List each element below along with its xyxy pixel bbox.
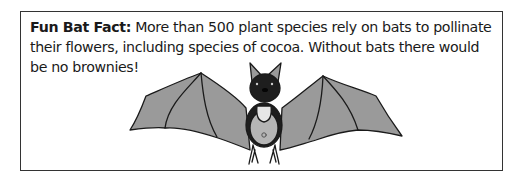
right-eye bbox=[271, 83, 273, 85]
bat-nose bbox=[262, 88, 268, 92]
left-eye bbox=[256, 83, 258, 85]
bat-icon bbox=[0, 0, 527, 180]
right-foot bbox=[270, 145, 279, 164]
bat-bib bbox=[257, 106, 271, 122]
right-wing bbox=[280, 76, 402, 150]
